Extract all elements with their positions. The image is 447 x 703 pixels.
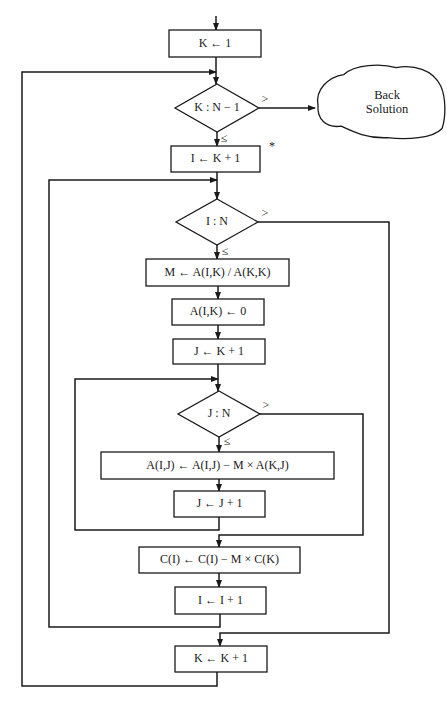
node-label-j-incr: J ← J + 1 bbox=[196, 497, 242, 511]
branch-label-i-test-gt: > bbox=[262, 206, 269, 221]
node-label-m-calc: M ← A(I,K) / A(K,K) bbox=[165, 266, 271, 280]
node-label-i-test: I : N bbox=[206, 215, 228, 229]
branch-label-k-test-le: ≤ bbox=[221, 131, 228, 146]
node-label-k-test: K : N − 1 bbox=[194, 101, 239, 115]
branch-label-k-test-gt: > bbox=[262, 92, 269, 107]
node-label-j-init: J ← K + 1 bbox=[194, 345, 244, 359]
node-label-back-solve: Back Solution bbox=[366, 87, 408, 116]
node-label-k-init: K ← 1 bbox=[199, 37, 232, 51]
node-label-k-incr: K ← K + 1 bbox=[194, 652, 248, 666]
branch-label-i-test-le: ≤ bbox=[222, 244, 229, 259]
node-label-j-test: J : N bbox=[208, 407, 231, 421]
node-label-aik-zero: A(I,K) ← 0 bbox=[190, 305, 246, 319]
branch-label-j-test-le: ≤ bbox=[224, 434, 231, 449]
branch-label-j-test-gt: > bbox=[263, 398, 270, 413]
node-label-i-incr: I ← I + 1 bbox=[198, 594, 243, 608]
node-label-aij-update: A(I,J) ← A(I,J) − M × A(K,J) bbox=[146, 459, 289, 473]
flowchart-canvas: K ← 1K : N − 1Back SolutionI ← K + 1I : … bbox=[0, 0, 447, 703]
node-label-i-init: I ← K + 1 bbox=[191, 152, 240, 166]
nodes-layer bbox=[101, 30, 445, 672]
edge-jtest-gt-c bbox=[219, 414, 363, 547]
node-label-c-update: C(I) ← C(I) − M × C(K) bbox=[160, 553, 279, 567]
asterisk-annotation: * bbox=[269, 139, 275, 154]
